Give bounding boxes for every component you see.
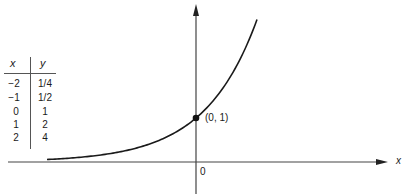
table-cell-x: 1 xyxy=(6,119,26,130)
table-cell-y: 1 xyxy=(35,106,55,117)
table-cell-y: 1/4 xyxy=(35,78,55,89)
point-marker xyxy=(193,115,200,122)
table-column-divider xyxy=(30,57,31,149)
y-axis-arrow-icon xyxy=(193,4,199,16)
point-label: (0, 1) xyxy=(205,112,228,123)
x-axis-label: x xyxy=(396,155,401,166)
table-header-y: y xyxy=(40,57,46,69)
table-cell-y: 2 xyxy=(35,119,55,130)
table-cell-x: 2 xyxy=(6,132,26,143)
table-cell-y: 1/2 xyxy=(35,92,55,103)
table-cell-x: −2 xyxy=(4,78,24,89)
x-axis-arrow-icon xyxy=(376,159,388,165)
table-cell-x: −1 xyxy=(4,92,24,103)
table-cell-x: 0 xyxy=(6,106,26,117)
table-header-x: x xyxy=(10,57,16,69)
exponential-curve xyxy=(47,20,257,160)
table-cell-y: 4 xyxy=(35,132,55,143)
plot-area xyxy=(0,0,405,194)
origin-label: 0 xyxy=(200,166,206,177)
